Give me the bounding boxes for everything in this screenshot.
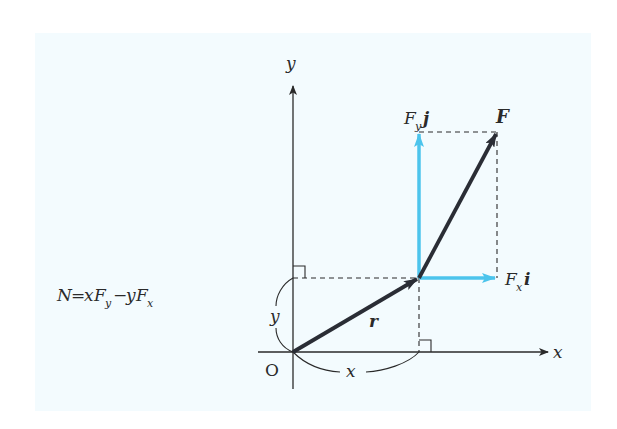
fy-component-label: F y j xyxy=(403,108,430,133)
fy-label-subscript: y xyxy=(414,120,422,133)
fx-component-label: F x i xyxy=(504,269,530,294)
x-axis-label: x xyxy=(553,342,563,362)
right-angle-marker-y xyxy=(293,266,305,278)
torque-formula: N = x F y − y F x xyxy=(56,285,154,310)
right-angle-marker-x xyxy=(419,340,431,352)
formula-sub-x: x xyxy=(147,297,154,310)
axes: x y O xyxy=(258,53,563,389)
y-brace-arc-lower xyxy=(276,328,293,352)
origin-label: O xyxy=(265,360,279,380)
y-brace-label: y xyxy=(269,306,280,326)
x-brace-label: x xyxy=(346,361,356,381)
fy-label-unit-j: j xyxy=(420,108,430,128)
torque-diagram: x y O y x r F F y j F xyxy=(0,0,617,429)
dashed-guides xyxy=(293,132,497,352)
r-vector-label: r xyxy=(369,311,379,331)
F-vector-label: F xyxy=(495,106,510,127)
fx-label-subscript: x xyxy=(516,281,523,294)
y-axis-label: y xyxy=(285,53,296,73)
x-brace-arc-left xyxy=(293,352,340,372)
formula-y: y xyxy=(125,285,136,305)
main-vectors xyxy=(293,134,496,352)
force-vector-F xyxy=(419,134,496,278)
x-brace-arc-right xyxy=(366,352,419,372)
y-brace-arc-upper xyxy=(276,278,293,306)
formula-x: x xyxy=(84,285,94,305)
position-vector-r xyxy=(293,279,417,352)
fx-label-unit-i: i xyxy=(524,269,530,289)
formula-sub-y: y xyxy=(104,297,112,310)
